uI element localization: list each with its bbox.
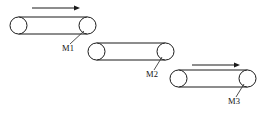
conveyor-3-flow-arrow-head	[234, 62, 240, 67]
conveyor-1-right-roller	[79, 17, 96, 34]
diagram-canvas: M1M2M3	[0, 0, 272, 116]
conveyor-2-right-roller	[157, 43, 174, 60]
conveyor-2-motor-label: M2	[146, 69, 158, 79]
conveyor-1-motor-label: M1	[62, 43, 74, 53]
conveyor-1-flow-arrow-head	[74, 5, 80, 10]
conveyor-2: M2	[88, 43, 174, 79]
conveyor-3-flow-arrow	[192, 62, 240, 67]
conveyor-1-left-roller	[10, 17, 27, 34]
conveyor-1: M1	[10, 5, 96, 53]
conveyor-3-right-roller	[239, 70, 256, 87]
conveyor-2-left-roller	[88, 43, 105, 60]
conveyor-3-motor-label: M3	[228, 96, 240, 106]
conveyor-1-flow-arrow	[32, 5, 80, 10]
conveyor-3: M3	[170, 62, 256, 106]
conveyor-3-left-roller	[170, 70, 187, 87]
conveyor-diagram: M1M2M3	[0, 0, 272, 116]
